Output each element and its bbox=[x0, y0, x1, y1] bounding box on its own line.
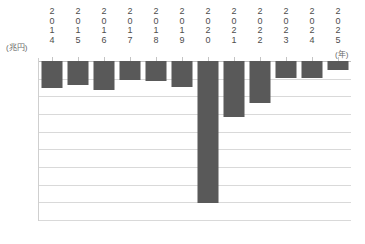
bar-slot bbox=[91, 61, 117, 220]
bar-slot bbox=[195, 61, 221, 220]
bar-slot bbox=[247, 61, 273, 220]
bar[interactable] bbox=[94, 61, 115, 90]
x-axis-tick-label: 2019 bbox=[176, 7, 188, 45]
bar-slot bbox=[299, 61, 325, 220]
bar-slot bbox=[325, 61, 351, 220]
bar[interactable] bbox=[328, 61, 349, 70]
x-axis-tick-label: 2020 bbox=[202, 7, 214, 45]
bar[interactable] bbox=[68, 61, 89, 85]
bar-chart: (兆円) (年) -0-10-20-30-40-50-60-70-80-90 2… bbox=[0, 0, 365, 244]
x-axis-tick-label: 2024 bbox=[306, 7, 318, 45]
x-axis-tick-label: 2018 bbox=[150, 7, 162, 45]
bar-slot bbox=[273, 61, 299, 220]
bar[interactable] bbox=[42, 61, 63, 88]
bar-slot bbox=[65, 61, 91, 220]
x-axis-tick-label: 2015 bbox=[72, 7, 84, 45]
bar[interactable] bbox=[224, 61, 245, 117]
bar-slot bbox=[169, 61, 195, 220]
x-axis-tick-label: 2017 bbox=[124, 7, 136, 45]
bar-slot bbox=[143, 61, 169, 220]
bar-series bbox=[39, 61, 351, 220]
x-axis-unit-label: (年) bbox=[335, 48, 348, 59]
y-axis-unit-label: (兆円) bbox=[6, 41, 27, 52]
bar[interactable] bbox=[276, 61, 297, 78]
x-axis-tick-label: 2016 bbox=[98, 7, 110, 45]
x-axis-tick-label: 2023 bbox=[280, 7, 292, 45]
x-axis-tick-label: 2014 bbox=[46, 7, 58, 45]
bar-slot bbox=[221, 61, 247, 220]
bar[interactable] bbox=[146, 61, 167, 81]
bar[interactable] bbox=[250, 61, 271, 103]
bar[interactable] bbox=[120, 61, 141, 80]
gridline bbox=[39, 220, 351, 221]
plot-area: -0-10-20-30-40-50-60-70-80-90 2014201520… bbox=[39, 61, 351, 220]
bar[interactable] bbox=[198, 61, 219, 203]
bar[interactable] bbox=[172, 61, 193, 87]
x-axis-tick-label: 2025 bbox=[332, 7, 344, 45]
bar-slot bbox=[39, 61, 65, 220]
x-axis-tick-label: 2022 bbox=[254, 7, 266, 45]
bar[interactable] bbox=[302, 61, 323, 78]
bar-slot bbox=[117, 61, 143, 220]
x-axis-tick-label: 2021 bbox=[228, 7, 240, 45]
